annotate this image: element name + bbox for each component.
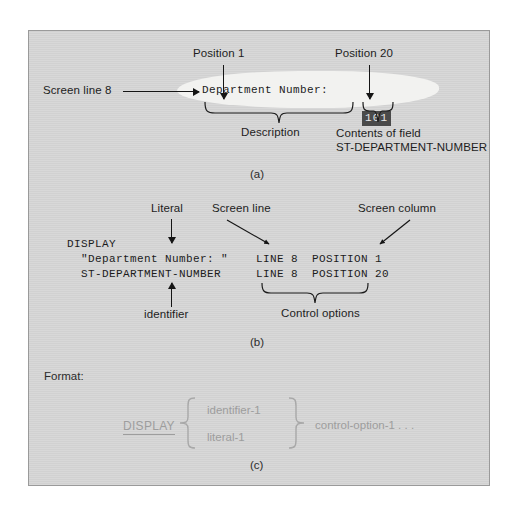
format-operand-identifier: identifier-1: [207, 404, 261, 416]
brace-control-options: [260, 283, 372, 307]
arrow-literal: [171, 219, 172, 243]
caption-c: (c): [250, 459, 263, 471]
brace-label-field-name: ST-DEPARTMENT-NUMBER: [336, 141, 487, 153]
brace-field-contents: [361, 102, 395, 126]
arrow-screen-line-8: [123, 91, 199, 92]
arrow-screen-column: [374, 218, 430, 250]
format-left-brace: [177, 397, 199, 449]
format-operand-literal: literal-1: [207, 431, 245, 443]
callout-literal: Literal: [151, 202, 183, 214]
caption-a: (a): [250, 168, 264, 180]
arrow-identifier: [171, 283, 172, 307]
brace-description: [203, 102, 355, 126]
code-control-option-line-2: LINE 8 POSITION 20: [256, 267, 389, 282]
brace-label-control-options: Control options: [281, 307, 360, 319]
screen-line-text: Department Number:: [202, 84, 328, 96]
caption-b: (b): [250, 336, 264, 348]
figure-panel: Position 1 Position 20 Screen line 8 Dep…: [28, 30, 490, 486]
arrow-position-20: [369, 65, 370, 99]
callout-screen-line-8: Screen line 8: [43, 84, 111, 96]
format-trailing-control-option: control-option-1 . . .: [315, 419, 414, 431]
code-control-option-line-1: LINE 8 POSITION 1: [256, 252, 382, 267]
arrow-screen-line: [225, 218, 285, 250]
callout-screen-line: Screen line: [212, 202, 271, 214]
format-heading: Format:: [44, 370, 84, 382]
callout-position-1: Position 1: [193, 47, 245, 59]
callout-screen-column: Screen column: [358, 202, 436, 214]
brace-label-contents-of-field: Contents of field: [336, 127, 421, 139]
code-literal-operand: "Department Number: ": [67, 252, 228, 267]
format-right-brace: [285, 397, 307, 449]
code-display-verb: DISPLAY: [67, 237, 116, 252]
code-identifier-operand: ST-DEPARTMENT-NUMBER: [67, 267, 221, 282]
brace-label-description: Description: [241, 126, 300, 138]
callout-position-20: Position 20: [335, 47, 393, 59]
format-verb-display: DISPLAY: [123, 419, 175, 435]
callout-identifier: identifier: [144, 308, 188, 320]
